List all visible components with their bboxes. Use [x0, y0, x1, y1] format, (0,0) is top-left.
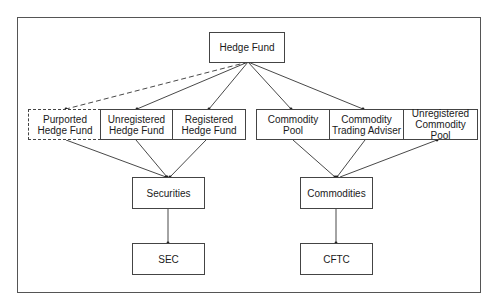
node-securities: Securities	[132, 177, 205, 209]
node-unregistered-hedge-fund: Unregistered Hedge Fund	[100, 109, 173, 140]
node-label: SEC	[158, 254, 179, 265]
node-commodities: Commodities	[300, 177, 373, 209]
node-label: Commodity Pool	[257, 114, 329, 136]
edge-commodities-unregistered-cp	[340, 140, 437, 177]
node-purported-hedge-fund: Purported Hedge Fund	[28, 109, 101, 140]
node-unregistered-commodity-pool: Unregistered Commodity Pool	[404, 109, 478, 140]
node-label: Commodity Trading Adviser	[332, 114, 401, 136]
node-label: Unregistered Hedge Fund	[108, 114, 165, 136]
edge-pool-commodities	[293, 140, 335, 177]
node-label: Unregistered Commodity Pool	[404, 108, 477, 141]
node-label: Securities	[147, 188, 191, 199]
node-label: Purported Hedge Fund	[37, 114, 92, 136]
edge-hf-commodity-pool	[248, 62, 291, 109]
node-commodity-trading-adviser: Commodity Trading Adviser	[330, 109, 404, 140]
edge-registered-securities	[170, 140, 206, 177]
edge-hf-unregistered	[137, 62, 248, 109]
edge-hf-cta	[248, 62, 363, 109]
edge-hf-purported	[66, 62, 248, 109]
node-label: CFTC	[323, 254, 350, 265]
node-label: Registered Hedge Fund	[181, 114, 236, 136]
node-hedge-fund: Hedge Fund	[209, 32, 285, 63]
node-label: Commodities	[307, 188, 365, 199]
node-sec: SEC	[132, 243, 205, 275]
edge-cta-commodities	[337, 140, 365, 177]
node-label: Hedge Fund	[219, 42, 274, 53]
node-registered-hedge-fund: Registered Hedge Fund	[173, 109, 246, 140]
node-cftc: CFTC	[300, 243, 373, 275]
edge-hf-registered	[209, 62, 248, 109]
node-commodity-pool: Commodity Pool	[256, 109, 330, 140]
